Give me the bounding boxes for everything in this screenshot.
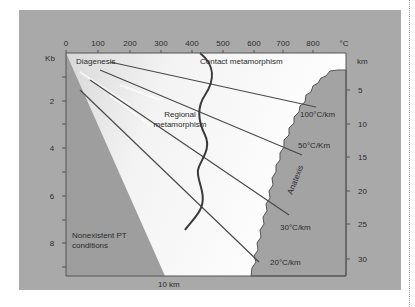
top-tick-label: 700 — [276, 39, 290, 48]
left-ticks — [62, 77, 66, 267]
regional-metamorphism-label: metamorphism — [154, 120, 207, 129]
regional-metamorphism-label: Regional — [164, 110, 196, 119]
right-tick-label: 30 — [358, 255, 367, 264]
right-tick-label: 10 — [358, 120, 367, 129]
geotherm-label: 50°C/Km — [298, 141, 330, 150]
contact-metamorphism-label: Contact metamorphism — [200, 57, 283, 66]
geotherm-label: 30°C/km — [280, 223, 311, 232]
left-axis-labels: Kb 2 4 6 8 — [45, 54, 55, 248]
left-tick-label: 6 — [50, 192, 55, 201]
right-tick-label: 15 — [358, 153, 367, 162]
top-axis-labels: 0 100 200 300 400 500 600 700 800 °C — [64, 39, 349, 48]
right-axis-labels: km 5 10 15 20 25 30 — [357, 57, 368, 264]
top-tick-label: 400 — [185, 39, 199, 48]
nonexistent-pt-label: conditions — [72, 241, 108, 250]
pt-diagram: 0 100 200 300 400 500 600 700 800 °C Kb … — [0, 0, 415, 307]
bottom-depth-label: 10 km — [158, 280, 180, 289]
right-tick-label: 25 — [358, 220, 367, 229]
top-tick-label: 800 — [306, 39, 320, 48]
top-tick-label: 500 — [216, 39, 230, 48]
geotherm-label: 100°C/km — [300, 110, 336, 119]
left-tick-label: 4 — [50, 144, 55, 153]
top-axis-unit: °C — [340, 39, 349, 48]
right-tick-label: 5 — [358, 86, 363, 95]
top-tick-label: 200 — [123, 39, 137, 48]
diagenesis-label: Diagenesis — [76, 57, 116, 66]
left-tick-label: 8 — [50, 239, 55, 248]
geotherm-label: 20°C/km — [270, 258, 301, 267]
top-tick-label: 100 — [91, 39, 105, 48]
left-tick-label: 2 — [50, 97, 55, 106]
top-tick-label: 0 — [64, 39, 69, 48]
right-tick-label: 20 — [358, 187, 367, 196]
right-axis-unit: km — [357, 57, 368, 66]
right-ticks — [346, 90, 350, 259]
nonexistent-pt-label: Nonexistent PT — [72, 231, 127, 240]
left-axis-unit: Kb — [45, 54, 55, 63]
top-tick-label: 600 — [247, 39, 261, 48]
top-tick-label: 300 — [154, 39, 168, 48]
